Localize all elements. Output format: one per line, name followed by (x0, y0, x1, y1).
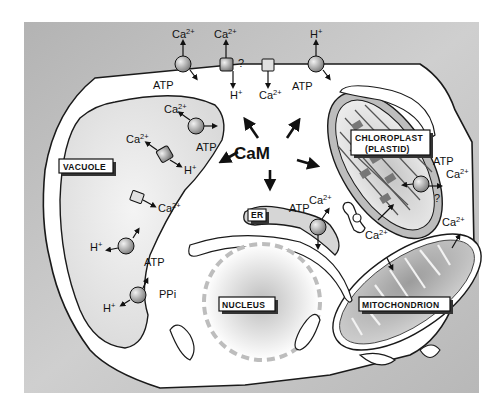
vac-h-ppase (130, 287, 146, 303)
atp-label: ATP (289, 202, 310, 214)
atp-label: ATP (292, 80, 313, 92)
vac-ca-atpase (188, 118, 204, 134)
cam-label: CaM (234, 144, 270, 163)
svg-text:(PLASTID): (PLASTID) (365, 144, 410, 154)
pm-ca-atpase (175, 56, 191, 72)
unknown-label: ? (238, 57, 244, 69)
atp-label: ATP (433, 155, 454, 167)
pm-h-atpase (308, 56, 324, 72)
atp-label: ATP (196, 141, 217, 153)
pm-ca-h-exchanger (220, 58, 233, 71)
unknown-label: ? (434, 192, 440, 204)
nucleus-label: NUCLEUS (219, 297, 278, 314)
er-ca-atpase (310, 219, 326, 235)
ppi-label: PPi (159, 288, 176, 300)
vacuole-label: VACUOLE (59, 159, 116, 176)
mitochondrion-label: MITOCHONDRION (359, 297, 453, 314)
atp-label: ATP (153, 79, 174, 91)
svg-text:MITOCHONDRION: MITOCHONDRION (362, 300, 439, 310)
vac-h-atpase (118, 238, 134, 254)
pm-ca-channel (262, 59, 274, 71)
er-label: ER (248, 209, 269, 224)
chloroplast-ca-atpase (413, 176, 429, 192)
svg-text:ER: ER (251, 210, 263, 220)
cell-diagram: CaM (0, 0, 504, 408)
svg-text:NUCLEUS: NUCLEUS (222, 300, 265, 310)
atp-label: ATP (144, 256, 165, 268)
svg-text:VACUOLE: VACUOLE (63, 162, 106, 172)
svg-text:CHLOROPLAST: CHLOROPLAST (355, 133, 423, 143)
chloroplast-label: CHLOROPLAST (PLASTID) (351, 130, 433, 158)
